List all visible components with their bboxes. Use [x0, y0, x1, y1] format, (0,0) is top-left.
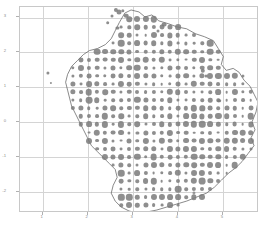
data-point-marker	[103, 82, 107, 86]
data-point-marker	[86, 121, 92, 127]
data-point-marker	[191, 105, 197, 111]
data-point-marker	[111, 146, 116, 151]
data-point-marker	[216, 138, 221, 143]
data-point-marker	[176, 33, 181, 38]
data-point-marker	[127, 42, 131, 46]
data-point-marker	[127, 49, 132, 54]
data-point-marker	[144, 123, 147, 126]
data-point-marker	[135, 90, 139, 94]
data-point-marker	[112, 139, 115, 142]
data-point-marker	[70, 81, 75, 86]
data-point-marker	[152, 98, 156, 102]
data-point-marker	[71, 66, 74, 69]
data-point-marker	[127, 147, 131, 151]
data-point-marker	[192, 138, 197, 143]
data-point-marker	[136, 115, 139, 118]
data-point-marker	[86, 81, 92, 87]
data-point-marker	[79, 82, 82, 85]
data-point-marker	[175, 194, 181, 200]
data-point-marker	[143, 49, 148, 54]
data-point-marker	[111, 65, 116, 70]
data-point-marker	[208, 114, 213, 119]
data-point-marker	[128, 179, 131, 182]
data-point-marker	[128, 188, 131, 191]
data-point-marker	[216, 89, 222, 95]
data-point-marker	[217, 106, 221, 110]
data-point-marker	[183, 49, 189, 55]
data-point-marker	[79, 90, 83, 94]
data-point-marker	[144, 195, 148, 199]
data-point-marker	[185, 99, 188, 102]
data-point-marker	[241, 74, 244, 77]
data-point-marker	[151, 25, 155, 29]
data-point-marker	[241, 147, 244, 150]
data-point-marker	[175, 186, 182, 193]
data-point-marker	[151, 32, 157, 38]
data-point-marker	[176, 179, 180, 183]
data-point-marker	[95, 90, 99, 94]
data-point-marker	[208, 130, 212, 134]
data-point-marker	[151, 49, 155, 53]
data-point-marker	[95, 57, 100, 62]
data-point-marker	[87, 106, 91, 110]
data-point-marker	[134, 40, 140, 46]
bubble-map-figure: 3210-1-2 12345	[0, 0, 264, 244]
data-point-marker	[167, 202, 173, 208]
data-point-marker	[191, 195, 196, 200]
data-point-marker	[152, 115, 155, 118]
data-point-marker	[184, 171, 187, 174]
data-point-marker	[167, 65, 172, 70]
data-point-marker	[185, 58, 188, 61]
data-point-marker	[152, 82, 156, 86]
data-point-marker	[142, 56, 149, 63]
data-point-marker	[231, 73, 237, 79]
data-point-marker	[112, 123, 115, 126]
data-point-marker	[193, 131, 196, 134]
data-point-marker	[95, 122, 99, 126]
data-point-marker	[200, 42, 203, 45]
data-point-marker	[209, 90, 213, 94]
data-point-marker	[159, 49, 164, 54]
data-point-marker	[184, 90, 188, 94]
data-point-marker	[216, 82, 220, 86]
data-point-marker	[71, 74, 74, 77]
data-point-marker	[216, 49, 221, 54]
data-point-marker	[232, 130, 238, 136]
data-point-marker	[168, 58, 171, 61]
data-point-marker	[127, 163, 131, 167]
data-point-marker	[167, 25, 172, 30]
data-point-marker	[208, 154, 213, 159]
data-point-marker	[200, 114, 205, 119]
data-point-marker	[233, 98, 237, 102]
data-point-marker	[160, 90, 163, 93]
data-point-marker	[160, 147, 163, 150]
data-point-marker	[191, 170, 197, 176]
data-point-marker	[111, 73, 116, 78]
data-point-marker	[191, 146, 197, 152]
data-point-marker	[201, 91, 204, 94]
data-point-marker	[183, 113, 189, 119]
data-point-marker	[208, 106, 213, 111]
plot-area[interactable]	[19, 6, 258, 212]
data-point-marker	[225, 91, 228, 94]
data-point-marker	[151, 194, 157, 200]
data-point-marker	[111, 130, 116, 135]
data-point-marker	[176, 106, 181, 111]
data-point-marker	[151, 146, 156, 151]
data-point-marker	[207, 48, 214, 55]
data-point-marker	[127, 33, 132, 38]
data-point-marker	[160, 98, 164, 102]
data-point-marker	[126, 194, 132, 200]
data-point-marker	[124, 13, 129, 18]
data-point-marker	[136, 131, 139, 134]
data-point-marker	[127, 138, 132, 143]
data-point-marker	[121, 9, 124, 12]
data-point-marker	[135, 195, 139, 199]
data-point-marker	[119, 49, 124, 54]
data-point-marker	[143, 162, 148, 167]
data-point-marker	[126, 65, 132, 71]
data-point-marker	[152, 139, 155, 142]
data-point-marker	[127, 90, 131, 94]
data-point-marker	[102, 154, 108, 160]
data-point-marker	[184, 179, 188, 183]
